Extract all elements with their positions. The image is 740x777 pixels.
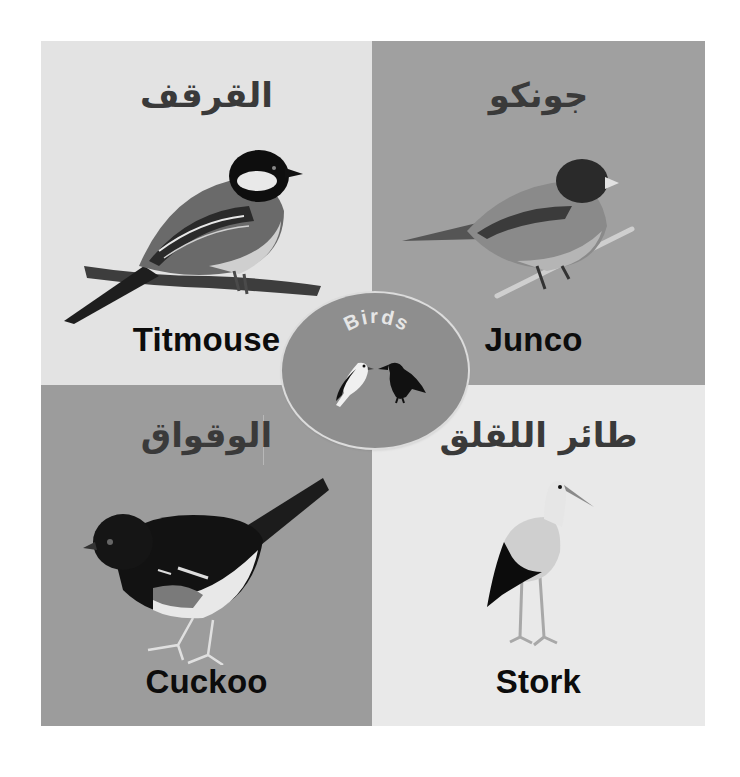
bird-flashcard: القرقف Titmouse جونكو <box>41 41 705 726</box>
white-bird-icon <box>330 355 374 411</box>
quadrant-cuckoo: الوقواق Cuckoo <box>41 385 372 726</box>
stork-bird-icon <box>482 477 602 657</box>
arabic-label-titmouse: القرقف <box>41 75 372 115</box>
birds-badge: Birds <box>282 293 468 448</box>
badge-title: Birds <box>340 305 414 336</box>
junco-bird-icon <box>397 151 637 301</box>
crow-icon <box>378 359 428 405</box>
cuckoo-bird-icon <box>83 470 333 665</box>
svg-text:Birds: Birds <box>340 305 414 336</box>
english-label-stork: Stork <box>372 663 705 701</box>
arabic-label-junco: جونكو <box>372 75 705 115</box>
english-label-cuckoo: Cuckoo <box>41 663 372 701</box>
badge-title-arc: Birds <box>282 293 468 373</box>
